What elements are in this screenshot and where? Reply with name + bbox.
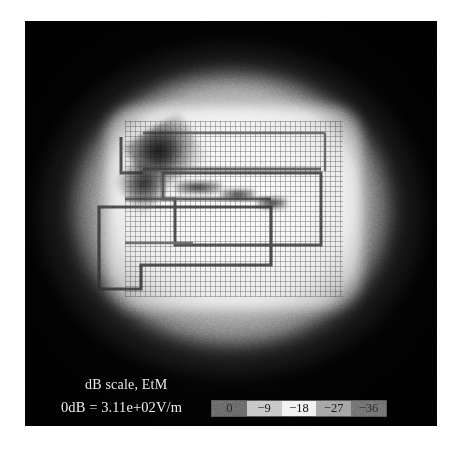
hot-streak-c — [257, 197, 287, 209]
hot-streak-b — [221, 189, 255, 200]
figure-root: dB scale, EtM 0dB = 3.11e+02V/m 0 −9 −18… — [0, 0, 463, 449]
field-plot-canvas: dB scale, EtM 0dB = 3.11e+02V/m 0 −9 −18… — [25, 21, 437, 426]
hot-streak-a — [175, 181, 221, 194]
antenna-conductor-traces — [25, 21, 437, 426]
